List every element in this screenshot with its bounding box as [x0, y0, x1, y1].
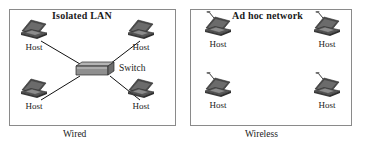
laptop-icon — [125, 77, 157, 101]
wireless-laptop-icon — [311, 72, 343, 100]
node-host-wireless-bottom-right[interactable]: Host — [307, 76, 347, 112]
host-label: Host — [121, 101, 161, 111]
host-label: Host — [121, 42, 161, 52]
host-label: Host — [198, 39, 238, 49]
laptop-icon — [18, 77, 50, 101]
laptop-icon — [125, 18, 157, 42]
panel-wireless-caption: Wireless — [245, 129, 278, 139]
switch-icon — [75, 60, 115, 80]
node-host-wireless-top-right[interactable]: Host — [307, 15, 347, 51]
switch-label: Switch — [119, 63, 145, 73]
wireless-laptop-icon — [311, 11, 343, 39]
host-label: Host — [14, 42, 54, 52]
figure-canvas: Isolated LAN Host Host — [0, 0, 366, 151]
host-label: Host — [307, 100, 347, 110]
laptop-icon — [18, 18, 50, 42]
node-host-wireless-top-left[interactable]: Host — [198, 15, 238, 51]
panel-wired-title: Isolated LAN — [52, 10, 112, 21]
wireless-laptop-icon — [202, 72, 234, 100]
node-host-wireless-bottom-left[interactable]: Host — [198, 76, 238, 112]
node-host-wired-bottom-right[interactable]: Host — [121, 77, 161, 113]
host-label: Host — [198, 100, 238, 110]
wireless-laptop-icon — [202, 11, 234, 39]
host-label: Host — [307, 39, 347, 49]
node-host-wired-top-right[interactable]: Host — [121, 18, 161, 54]
panel-wireless-title: Ad hoc network — [232, 10, 303, 21]
node-host-wired-bottom-left[interactable]: Host — [14, 77, 54, 113]
node-host-wired-top-left[interactable]: Host — [14, 18, 54, 54]
node-switch[interactable]: Switch — [75, 60, 115, 80]
host-label: Host — [14, 101, 54, 111]
panel-wired-caption: Wired — [63, 129, 86, 139]
